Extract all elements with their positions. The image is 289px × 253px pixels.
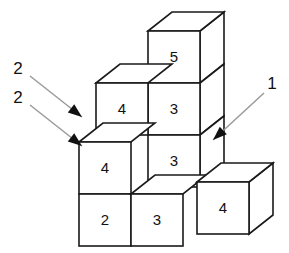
cube-4-7: 4 (197, 163, 273, 234)
cube-top-face (79, 123, 155, 142)
arrow-head-icon (68, 133, 82, 146)
arrow-head-icon (68, 104, 82, 117)
cube-figure-canvas: 53344234 221 (0, 0, 289, 253)
cube-number-label: 4 (219, 199, 227, 216)
cubes-layer: 53344234 (79, 12, 273, 246)
cube-number-label: 5 (170, 48, 178, 65)
cube-number-label: 4 (101, 159, 109, 176)
annotation-number-label: 1 (267, 74, 276, 93)
cube-number-label: 3 (170, 100, 178, 117)
arrow-label-2-lower: 2 (13, 88, 82, 146)
cube-number-label: 3 (153, 211, 161, 228)
cube-number-label: 2 (101, 211, 109, 228)
cube-stack-diagram: 53344234 221 (0, 0, 289, 253)
arrow-label-2-upper: 2 (13, 59, 82, 117)
cube-top-face (131, 175, 207, 194)
cube-number-label: 3 (170, 152, 178, 169)
annotation-number-label: 2 (13, 88, 22, 107)
cube-2-5: 2 (79, 194, 131, 246)
cube-number-label: 4 (118, 100, 126, 117)
annotation-number-label: 2 (13, 59, 22, 78)
